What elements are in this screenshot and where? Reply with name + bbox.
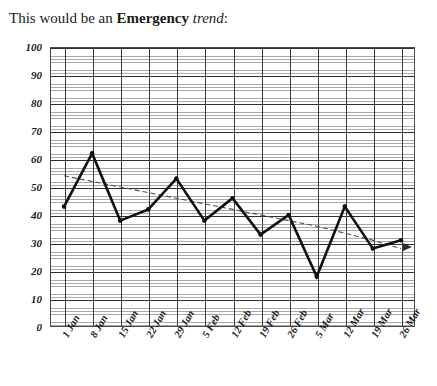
x-axis-tick-label: 12 Mar [341, 306, 366, 339]
x-axis-tick-label: 29 Jan [172, 308, 196, 339]
x-axis-tick-label: 26 Feb [285, 308, 310, 340]
x-axis-tick-label: 19 Mar [369, 306, 394, 339]
title-prefix: This would be an [9, 10, 116, 26]
title-suffix: : [224, 10, 228, 26]
x-axis-tick-label: 1 Jan [60, 313, 82, 339]
title-emphasis: Emergency [116, 10, 188, 26]
x-axis-tick-label: 26 Mar [397, 306, 422, 339]
x-axis-tick-label: 8 Jan [88, 313, 110, 339]
x-axis-tick-label: 22 Jan [144, 308, 168, 339]
title-italic: trend [193, 10, 224, 26]
x-axis-labels: 1 Jan8 Jan15 Jan22 Jan29 Jan5 Feb12 Feb1… [0, 38, 437, 386]
x-axis-tick-label: 15 Jan [116, 308, 140, 339]
line-chart: 0102030405060708090100 1 Jan8 Jan15 Jan2… [0, 38, 437, 386]
x-axis-tick-label: 12 Feb [229, 308, 254, 340]
page-title: This would be an Emergency trend: [9, 9, 228, 27]
x-axis-tick-label: 5 Feb [200, 313, 222, 340]
x-axis-tick-label: 5 Mar [313, 311, 336, 340]
x-axis-tick-label: 19 Feb [257, 308, 282, 340]
